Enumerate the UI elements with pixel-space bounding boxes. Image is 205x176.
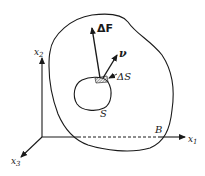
diagram-canvas: ΔF ν ΔS S B x2 x1 x3: [0, 0, 205, 176]
surface-label: S: [100, 108, 107, 119]
force-vector-label: ΔF: [97, 22, 113, 35]
x3-axis-label: x3: [11, 156, 21, 168]
x3-axis: [21, 137, 42, 157]
force-vector-arrow: [92, 28, 100, 78]
normal-vector-label: ν: [119, 47, 127, 60]
delta-s-pointer: [109, 74, 117, 78]
body-label: B: [154, 124, 162, 135]
surface-element-label: ΔS: [116, 71, 131, 82]
x1-axis-label: x1: [188, 134, 198, 146]
x2-axis-label: x2: [34, 47, 44, 59]
traction-diagram: ΔF ν ΔS S B x2 x1 x3: [0, 0, 205, 176]
